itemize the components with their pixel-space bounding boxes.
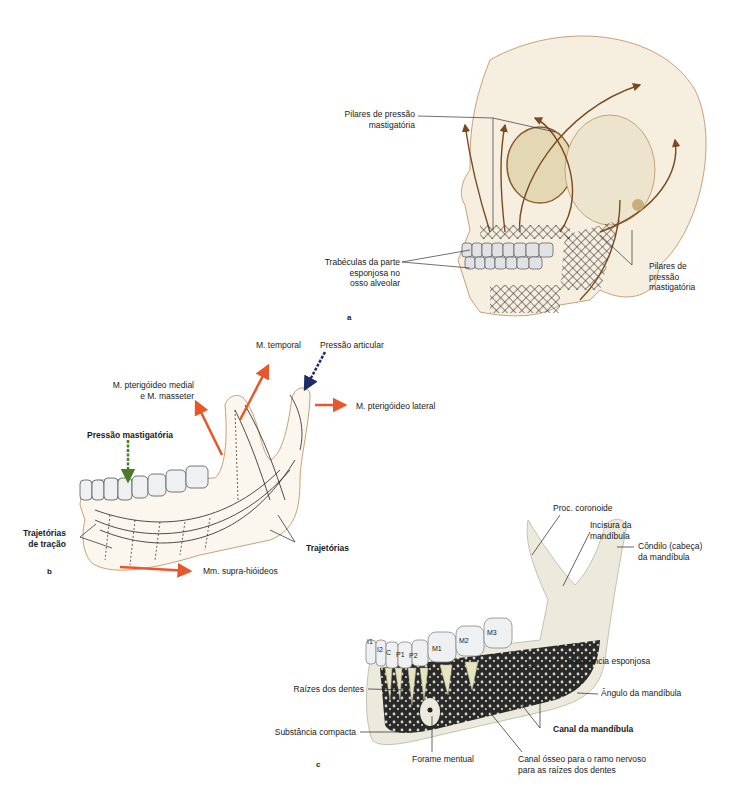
label-pilares-pressao-right: Pilares de pressão mastigatória bbox=[649, 261, 695, 293]
label-pilares-pressao-top: Pilares de pressão mastigatória bbox=[310, 109, 415, 130]
tooth-label-p2: P2 bbox=[409, 651, 418, 662]
label-mm-supra-hioideos: Mm. supra-hióideos bbox=[203, 566, 278, 577]
label-condilo: Côndilo (cabeça) da mandíbula bbox=[638, 541, 702, 562]
tooth-label-i2: I2 bbox=[377, 645, 383, 656]
label-forame-mentual: Forame mentual bbox=[412, 754, 474, 765]
label-proc-coronoide: Proc. coronoide bbox=[553, 503, 613, 514]
panel-letter-a: a bbox=[347, 313, 351, 322]
tooth-label-i1: I1 bbox=[367, 637, 373, 648]
panel-letter-b: b bbox=[47, 567, 52, 576]
label-incisura-mandibula: Incisura da mandíbula bbox=[590, 520, 632, 541]
label-m-pterigoideo-medial: M. pterigóideo medial e M. masseter bbox=[100, 380, 194, 401]
label-m-pterigoideo-lateral: M. pterigóideo lateral bbox=[356, 401, 435, 412]
mandible-section-drawing bbox=[360, 515, 634, 752]
label-raizes-dentes: Raízes dos dentes bbox=[260, 684, 364, 695]
label-trabeculas: Trabéculas da parte esponjosa no osso al… bbox=[300, 257, 400, 289]
tooth-label-p1: P1 bbox=[396, 650, 405, 661]
label-canal-osseo: Canal ósseo para o ramo nervoso para as … bbox=[518, 754, 646, 775]
panel-letter-c: c bbox=[316, 760, 320, 769]
label-pressao-mastigatoria: Pressão mastigatória bbox=[87, 430, 173, 441]
label-substancia-esponjosa: Substância esponjosa bbox=[567, 656, 650, 667]
tooth-label-m1: M1 bbox=[432, 644, 442, 655]
label-canal-mandibula: Canal da mandíbula bbox=[553, 724, 633, 735]
label-trajetorias-tracao: Trajetórias de tração bbox=[10, 528, 66, 549]
label-substancia-compacta: Substância compacta bbox=[240, 727, 356, 738]
tooth-label-m3: M3 bbox=[487, 628, 497, 639]
label-m-temporal: M. temporal bbox=[256, 340, 301, 351]
label-angulo-mandibula: Ângulo da mandíbula bbox=[601, 688, 681, 699]
tooth-label-m2: M2 bbox=[459, 636, 469, 647]
tooth-label-c: C bbox=[386, 648, 391, 659]
label-pressao-articular: Pressão articular bbox=[320, 340, 384, 351]
label-trajetorias: Trajetórias bbox=[306, 543, 349, 554]
